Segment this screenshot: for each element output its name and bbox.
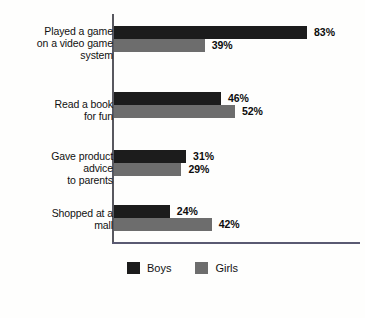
bar-boys: [114, 150, 186, 163]
bar-boys: [114, 26, 307, 39]
bar-value-label: 31%: [193, 150, 214, 163]
legend-item-girls[interactable]: Girls: [195, 262, 238, 274]
bar-boys: [114, 205, 170, 218]
bar-girls: [114, 39, 205, 52]
bar-girls: [114, 163, 181, 176]
bar-chart: Played a gameon a video gamesystem83%39%…: [0, 0, 365, 318]
category-label-line: advice: [9, 162, 113, 174]
category-label-line: to parents: [9, 174, 113, 186]
bar-value-label: 29%: [188, 163, 209, 176]
bar-girls: [114, 218, 212, 231]
category-label-line: Read a book: [9, 98, 113, 110]
bar-girls: [114, 105, 235, 118]
bar-value-label: 42%: [219, 218, 240, 231]
category-label-line: on a video game: [9, 37, 113, 49]
legend-swatch-icon: [127, 262, 140, 274]
category-label: Shopped at amall: [9, 207, 113, 231]
x-axis-line: [112, 242, 360, 244]
category-label: Gave productadviceto parents: [9, 150, 113, 187]
chart-legend: BoysGirls: [0, 262, 365, 274]
category-label: Read a bookfor fun: [9, 98, 113, 122]
bar-value-label: 83%: [314, 26, 335, 39]
legend-item-boys[interactable]: Boys: [127, 262, 171, 274]
category-label-line: mall: [9, 219, 113, 231]
legend-swatch-icon: [195, 262, 208, 274]
bar-value-label: 52%: [242, 105, 263, 118]
category-label-line: Gave product: [9, 150, 113, 162]
category-label: Played a gameon a video gamesystem: [9, 25, 113, 62]
bar-boys: [114, 92, 221, 105]
category-label-line: system: [9, 49, 113, 61]
bar-value-label: 24%: [177, 205, 198, 218]
legend-label: Boys: [147, 262, 171, 274]
category-label-line: Shopped at a: [9, 207, 113, 219]
legend-label: Girls: [215, 262, 238, 274]
category-label-line: Played a game: [9, 25, 113, 37]
bar-value-label: 39%: [212, 39, 233, 52]
category-label-line: for fun: [9, 110, 113, 122]
bar-value-label: 46%: [228, 92, 249, 105]
